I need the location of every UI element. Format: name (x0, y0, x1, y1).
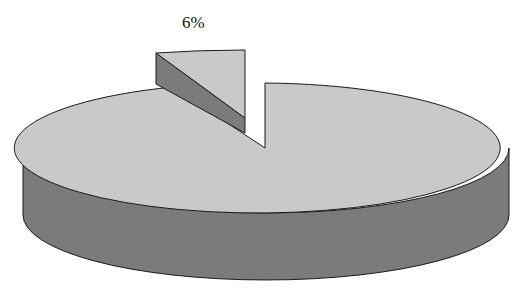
pie-main-top (14, 83, 500, 213)
slice-6-percent-label: 6% (182, 13, 205, 33)
pie-chart (0, 0, 532, 297)
